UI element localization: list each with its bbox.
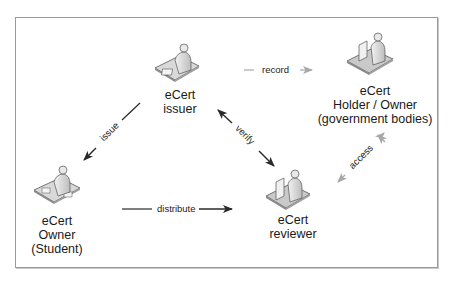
owner-person-icon [34,166,80,204]
owner-label: eCert Owner (Student) [22,214,92,256]
owner-line3: (Student) [22,242,92,256]
record-label: record [262,64,289,75]
reviewer-person-icon [266,170,310,210]
issuer-line2: issuer [150,102,210,116]
holder-line2: Holder / Owner [310,98,440,112]
issuer-label: eCert issuer [150,88,210,116]
reviewer-line1: eCert [258,213,328,227]
holder-line3: (government bodies) [310,112,440,126]
owner-line2: Owner [22,228,92,242]
distribute-label: distribute [157,203,196,214]
issuer-line1: eCert [150,88,210,102]
issuer-person-icon [155,44,199,82]
holder-line1: eCert [310,84,440,98]
holder-person-icon [347,33,393,75]
reviewer-line2: reviewer [258,227,328,241]
owner-line1: eCert [22,214,92,228]
reviewer-label: eCert reviewer [258,213,328,241]
holder-label: eCert Holder / Owner (government bodies) [310,84,440,126]
